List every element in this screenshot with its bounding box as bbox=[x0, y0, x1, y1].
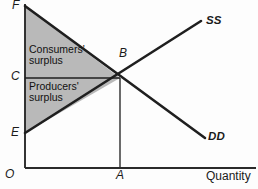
consumers-surplus-label: Consumers' surplus bbox=[29, 44, 85, 66]
demand-curve-label-DD: DD bbox=[208, 130, 225, 142]
equilibrium-point-label-B: B bbox=[119, 47, 127, 60]
producers-surplus-label: Producers' surplus bbox=[29, 81, 79, 103]
producers-surplus-label-line2: surplus bbox=[29, 92, 79, 103]
origin-label-O: O bbox=[5, 168, 14, 181]
y-axis-label-F: F bbox=[12, 0, 19, 12]
consumers-surplus-label-line2: surplus bbox=[29, 55, 85, 66]
supply-demand-surplus-figure: F C E O A B SS DD Quantity Consumers' su… bbox=[0, 0, 258, 189]
x-axis-label-A: A bbox=[116, 169, 124, 182]
y-axis-label-E: E bbox=[11, 126, 19, 139]
x-axis-title: Quantity bbox=[206, 170, 251, 183]
y-axis-label-C: C bbox=[11, 70, 20, 83]
supply-curve-label-SS: SS bbox=[206, 14, 222, 26]
